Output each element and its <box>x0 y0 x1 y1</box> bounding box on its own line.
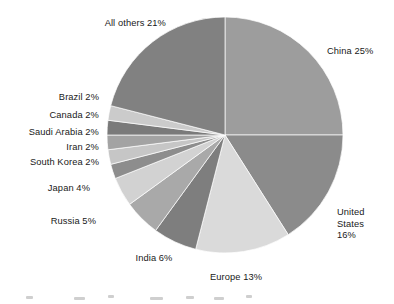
pie-label-brazil: Brazil 2% <box>2 92 99 104</box>
pie-label-united-states-line2: States <box>337 219 364 229</box>
pie-label-united-states-line3: 16% <box>337 230 356 240</box>
pie-slice-group <box>107 17 343 253</box>
pie-label-united-states-line1: United <box>337 207 364 217</box>
pie-label-europe: Europe 13% <box>196 272 276 284</box>
pie-label-united-states: United States 16% <box>337 207 391 242</box>
pie-slice-china <box>225 17 343 135</box>
pie-label-saudi-arabia: Saudi Arabia 2% <box>2 127 99 139</box>
pie-label-japan: Japan 4% <box>12 183 90 195</box>
pie-chart-figure: All others 21% China 25% United States 1… <box>0 0 394 304</box>
pie-label-all-others: All others 21% <box>36 18 166 30</box>
pie-label-iran: Iran 2% <box>2 142 99 154</box>
pie-label-russia: Russia 5% <box>12 216 96 228</box>
pie-label-china: China 25% <box>327 46 373 58</box>
pie-label-south-korea: South Korea 2% <box>2 157 99 169</box>
pie-label-india: India 6% <box>123 253 185 265</box>
pie-label-canada: Canada 2% <box>2 110 99 122</box>
